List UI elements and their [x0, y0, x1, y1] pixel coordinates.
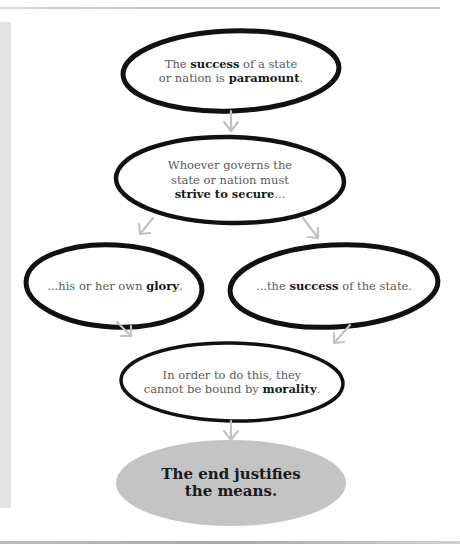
no-morality-text: In order to do this, theycannot be bound… [144, 368, 321, 397]
node-ruler-duty: Whoever governs thestate or nation musts… [130, 152, 330, 208]
node-no-morality: In order to do this, theycannot be bound… [126, 361, 338, 403]
node-own-glory: ...his or her own glory. [30, 272, 200, 300]
conclusion-text: The end justifiesthe means. [161, 466, 300, 500]
premise-text: The success of a stateor nation is param… [159, 57, 303, 86]
own-glory-text: ...his or her own glory. [47, 279, 182, 294]
arrow-duty-to-glory [139, 218, 153, 234]
node-state-success: ...the success of the state. [236, 272, 432, 300]
ruler-duty-text: Whoever governs thestate or nation musts… [168, 158, 292, 202]
arrow-premise-to-duty [224, 111, 238, 131]
state-success-text: ...the success of the state. [256, 279, 412, 294]
node-premise: The success of a stateor nation is param… [131, 46, 331, 96]
node-conclusion: The end justifiesthe means. [131, 461, 331, 505]
arrow-morality-to-conclusion [224, 421, 238, 440]
arrow-duty-to-success [303, 218, 318, 238]
